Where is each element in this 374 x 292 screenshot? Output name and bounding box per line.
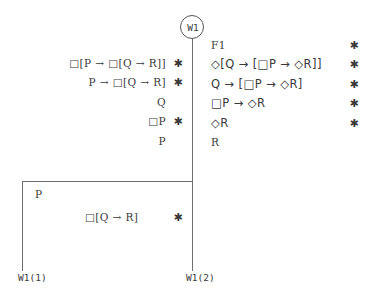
mark-asterisk-empty [172, 93, 184, 112]
right-branch-mark-column: ✱ ✱ ✱ ✱ ✱ [348, 36, 360, 152]
mark-asterisk: ✱ [172, 112, 184, 131]
mark-asterisk: ✱ [348, 94, 360, 113]
leaf-label-w1-2: W1(2) [186, 272, 215, 283]
formula-row: P → □[Q → R] [20, 73, 166, 92]
formula-text: Q → [□P → ◇R] [211, 77, 303, 91]
tableau-diagram: W1 □[P → □[Q → R]] P → □[Q → R] Q □P P ✱… [0, 0, 374, 292]
sub-branch-assumption: P [35, 188, 42, 200]
formula-row: □P → ◇R [211, 94, 346, 113]
left-branch-mark-column: ✱ ✱ ✱ [172, 54, 184, 151]
formula-row: F1 [211, 36, 346, 55]
mark-asterisk: ✱ [348, 36, 360, 55]
formula-text: ◇R [211, 116, 229, 130]
formula-row: Q → [□P → ◇R] [211, 75, 346, 94]
formula-text: P [159, 135, 166, 147]
formula-row: ◇[Q → [□P → ◇R]] [211, 55, 346, 74]
mark-asterisk: ✱ [348, 55, 360, 74]
world-node-w1[interactable]: W1 [180, 15, 204, 39]
mark-asterisk: ✱ [172, 54, 184, 73]
mark-asterisk-empty [172, 132, 184, 151]
formula-text: R [211, 136, 219, 148]
mark-asterisk-empty [348, 133, 360, 152]
mark-asterisk: ✱ [348, 114, 360, 133]
left-branch-formula-column: □[P → □[Q → R]] P → □[Q → R] Q □P P [20, 54, 166, 151]
branch-left-vertical-line [22, 181, 23, 271]
formula-text: □P [148, 115, 166, 127]
leaf-label-w1-1: W1(1) [18, 272, 47, 283]
formula-row: □P [20, 112, 166, 131]
mark-asterisk: ✱ [172, 73, 184, 92]
formula-row: R [211, 133, 346, 152]
sub-branch-formula: □[Q → R] [85, 211, 138, 223]
formula-text: □[P → □[Q → R]] [69, 57, 166, 69]
formula-text: Q [157, 96, 166, 108]
formula-text: ◇[Q → [□P → ◇R]] [211, 57, 322, 71]
right-branch-formula-column: F1 ◇[Q → [□P → ◇R]] Q → [□P → ◇R] □P → ◇… [211, 36, 346, 152]
mark-asterisk: ✱ [348, 75, 360, 94]
formula-row: Q [20, 93, 166, 112]
formula-text: F1 [211, 39, 226, 51]
formula-row: P [20, 132, 166, 151]
branch-horizontal-line [22, 181, 193, 182]
trunk-line [192, 39, 193, 271]
formula-row: □[P → □[Q → R]] [20, 54, 166, 73]
formula-row: ◇R [211, 114, 346, 133]
formula-text: P → □[Q → R] [89, 76, 166, 88]
formula-text: □P → ◇R [211, 96, 265, 110]
world-node-label: W1 [181, 16, 205, 40]
sub-branch-mark-asterisk: ✱ [172, 211, 184, 224]
